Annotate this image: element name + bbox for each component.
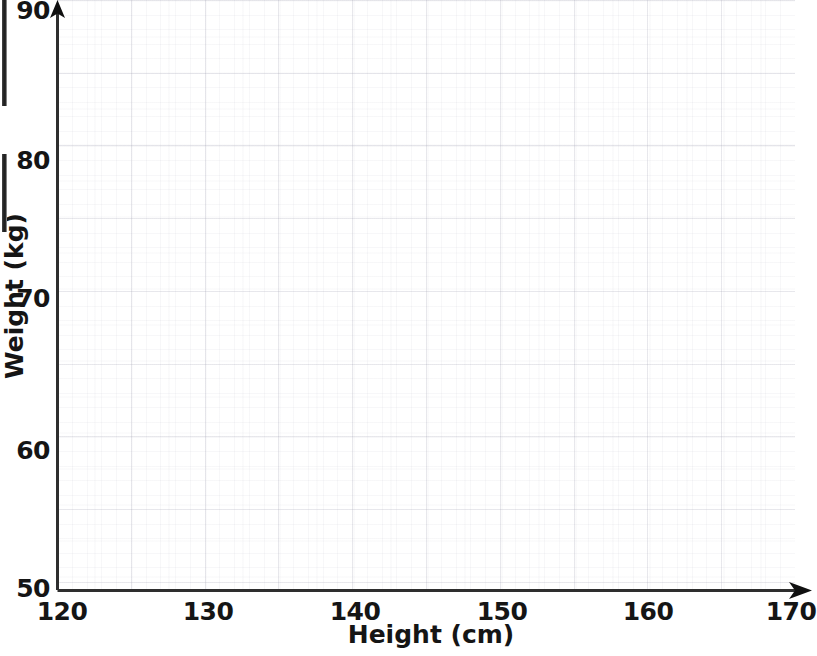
y-tick-label-60: 60 [8,436,50,465]
scan-edge-bar-top [2,0,7,106]
y-tick-label-80: 80 [8,146,50,175]
plot-area-grid [57,0,795,590]
scatter-plot-grid-figure: 90 80 70 60 50 120 130 140 150 160 170 H… [0,0,817,656]
scan-edge-bar-middle [2,154,7,232]
y-axis-title: Weight (kg) [0,213,29,379]
x-axis-title-text: Height (cm) [348,620,515,649]
x-axis-title: Height (cm) [0,620,817,649]
y-tick-label-90: 90 [8,0,50,25]
